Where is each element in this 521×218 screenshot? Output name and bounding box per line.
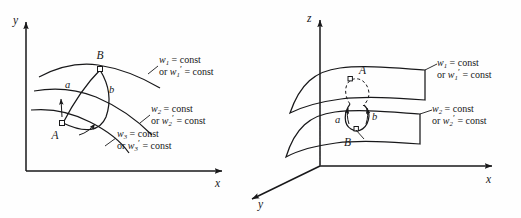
right-label-w1: w1 = const or w1′ = const [437, 57, 492, 81]
right-loop-hidden-arc [346, 79, 369, 106]
right-w1-or: or [437, 69, 448, 80]
left-point-B-label: B [96, 49, 103, 61]
left-label-w1: w1 = const or w1′ = const [159, 54, 214, 78]
left-path-a-arrow [61, 99, 62, 117]
right-w2-or: or [432, 115, 443, 126]
left-curve-w3 [31, 110, 129, 154]
right-point-A-marker [348, 77, 352, 81]
left-point-A-label: A [50, 129, 59, 141]
left-leader-w3 [105, 138, 116, 146]
left-w1-or: or [159, 66, 170, 77]
right-surface-w2 [286, 111, 420, 157]
right-point-B-leader [356, 130, 364, 139]
right-z-axis-label: z [306, 12, 312, 24]
left-label-w3: w3 = const or w3′ = const [117, 128, 172, 152]
right-surface-w2-outline [286, 111, 420, 157]
right-path-a-label: a [335, 114, 340, 125]
right-point-B-label: B [344, 136, 351, 148]
svg-text:or w1′ = const: or w1′ = const [159, 64, 214, 78]
left-leader-w1 [148, 66, 158, 74]
left-path-a-label: a [65, 79, 70, 90]
right-path-b-label: b [372, 111, 377, 122]
right-w2-rest: = const [442, 103, 474, 114]
right-leader-w1 [425, 64, 437, 70]
right-w2-rest2: = const [455, 115, 487, 126]
right-leader-w2 [420, 110, 432, 114]
left-leader-w2 [140, 115, 150, 123]
svg-text:or w2′ = const: or w2′ = const [432, 113, 487, 127]
right-x-axis-label: x [485, 173, 492, 185]
left-w1-rest2: = const [182, 66, 214, 77]
right-y-axis [252, 166, 320, 199]
diagram-svg: A B a b w1 = const or w1′ = const [0, 0, 521, 218]
right-surface-w1-outline [290, 67, 425, 113]
figure-canvas: A B a b w1 = const or w1′ = const [0, 0, 521, 218]
right-point-A-label: A [358, 64, 367, 76]
left-point-B-marker [98, 67, 103, 72]
right-surface-w1 [290, 67, 425, 113]
left-w2-or: or [151, 115, 162, 126]
left-path-b-label: b [109, 84, 114, 95]
left-w3-rest: = const [127, 128, 159, 139]
left-panel: A B a b w1 = const or w1′ = const [12, 14, 222, 189]
left-point-A-marker [60, 121, 65, 126]
left-x-axis-label: x [214, 177, 221, 189]
left-w2-rest: = const [161, 103, 193, 114]
svg-text:or w1′ = const: or w1′ = const [437, 67, 492, 81]
right-y-axis-label: y [257, 198, 264, 211]
svg-text:or w3′ = const: or w3′ = const [117, 138, 172, 152]
left-label-w2: w2 = const or w2′ = const [151, 103, 206, 127]
left-w3-or: or [117, 140, 128, 151]
left-w2-rest2: = const [174, 115, 206, 126]
right-w1-rest2: = const [460, 69, 492, 80]
right-panel: A B a b w1 = const or w1′ = const w2 = c [252, 12, 492, 211]
left-w1-rest: = const [169, 54, 201, 65]
left-w3-rest2: = const [140, 140, 172, 151]
right-w1-rest: = const [447, 57, 479, 68]
left-y-axis-label: y [12, 14, 19, 27]
right-label-w2: w2 = const or w2′ = const [432, 103, 487, 127]
svg-text:or w2′ = const: or w2′ = const [151, 113, 206, 127]
